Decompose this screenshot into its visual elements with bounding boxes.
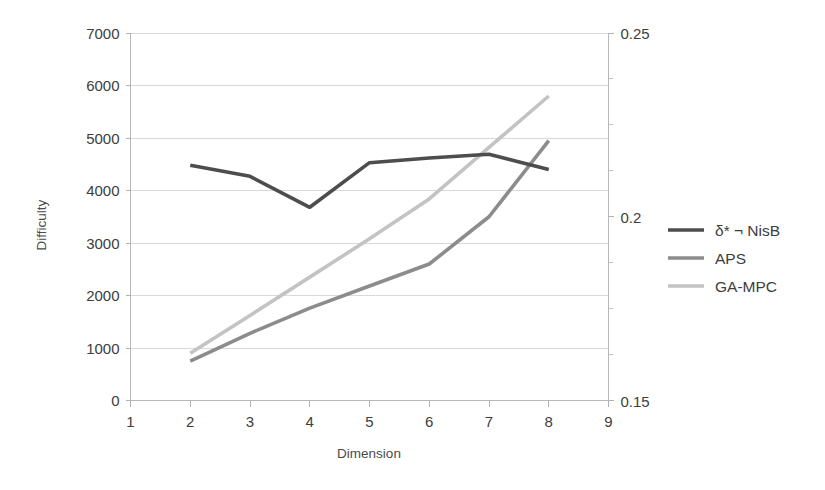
- chart-canvas: 01000200030004000500060007000 0.150.20.2…: [0, 0, 825, 490]
- left-axis-tick-label: 7000: [86, 25, 119, 42]
- x-axis-tick-label: 8: [545, 413, 553, 430]
- x-axis-tick-label: 7: [485, 413, 493, 430]
- right-axis-tick-label: 0.25: [621, 25, 650, 42]
- left-axis-tick-label: 2000: [86, 287, 119, 304]
- x-axis-tick-label: 2: [186, 413, 194, 430]
- x-axis-tick-label: 6: [425, 413, 433, 430]
- legend-label: GA-MPC: [715, 278, 777, 295]
- left-axis-tick-label: 3000: [86, 235, 119, 252]
- x-axis-tick-label: 9: [604, 413, 612, 430]
- chart-background: [0, 0, 825, 490]
- left-axis-tick-label: 6000: [86, 77, 119, 94]
- left-axis-tick-label: 4000: [86, 182, 119, 199]
- left-axis-tick-label: 5000: [86, 130, 119, 147]
- left-axis-tick-label: 0: [111, 392, 119, 409]
- left-axis-tick-label: 1000: [86, 340, 119, 357]
- y-axis-title: Difficulty: [34, 199, 49, 250]
- right-axis-tick-label: 0.15: [621, 393, 650, 410]
- x-axis-tick-label: 1: [126, 413, 134, 430]
- legend-label: δ* ¬ NisB: [715, 222, 780, 239]
- x-axis-title: Dimension: [337, 446, 401, 461]
- x-axis-tick-label: 5: [365, 413, 373, 430]
- x-axis-tick-label: 4: [306, 413, 314, 430]
- x-axis-tick-label: 3: [246, 413, 254, 430]
- legend-label: APS: [715, 250, 746, 267]
- right-axis-tick-label: 0.2: [621, 209, 642, 226]
